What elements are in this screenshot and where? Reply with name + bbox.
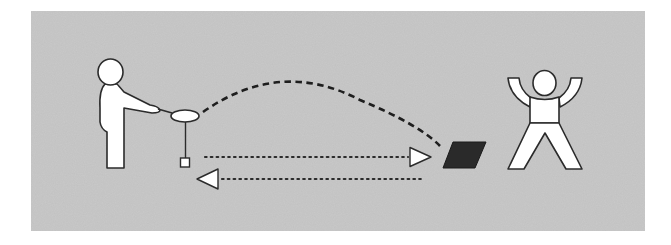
- diagram-stage: [0, 0, 671, 245]
- left-person-head: [98, 59, 123, 85]
- diagram-canvas: [0, 0, 671, 245]
- right-person-torso: [530, 97, 559, 123]
- hanging-weight: [181, 158, 190, 167]
- right-person-head: [533, 71, 556, 96]
- racket-head: [171, 110, 199, 122]
